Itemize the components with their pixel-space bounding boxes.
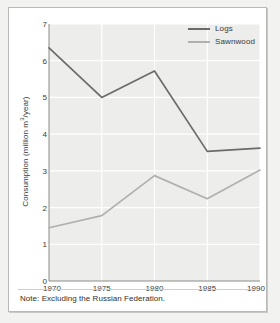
y-tick-label: 2 xyxy=(29,203,47,212)
y-tick-label: 4 xyxy=(29,130,47,139)
line-chart-svg xyxy=(9,8,268,313)
legend-item-logs[interactable]: Logs xyxy=(188,24,255,33)
y-tick-label: 3 xyxy=(29,166,47,175)
y-axis-title: Consumption (million m3/year) xyxy=(21,62,30,242)
footnote-divider xyxy=(18,289,257,290)
y-axis-title-tail: /year) xyxy=(21,96,30,117)
legend-item-sawnwood[interactable]: Sawnwood xyxy=(188,37,255,46)
y-axis-tick-labels: 01234567 xyxy=(29,8,47,311)
legend-label-logs: Logs xyxy=(215,24,233,33)
y-tick-label: 1 xyxy=(29,240,47,249)
footnote-text: Note: Excluding the Russian Federation. xyxy=(20,294,165,303)
y-tick-label: 5 xyxy=(29,93,47,102)
y-tick-label: 7 xyxy=(29,20,47,29)
y-tick-label: 6 xyxy=(29,56,47,65)
y-axis-title-superscript: 3 xyxy=(19,117,25,120)
line-swatch-icon xyxy=(188,41,210,43)
legend-label-sawnwood: Sawnwood xyxy=(215,37,255,46)
line-swatch-icon xyxy=(188,28,210,30)
chart-plot-container xyxy=(9,8,266,311)
chart-figure: 01234567 19701975198019851990 Consumptio… xyxy=(8,7,267,312)
chart-legend: Logs Sawnwood xyxy=(188,24,255,46)
y-axis-title-main: Consumption (million m xyxy=(21,121,30,207)
